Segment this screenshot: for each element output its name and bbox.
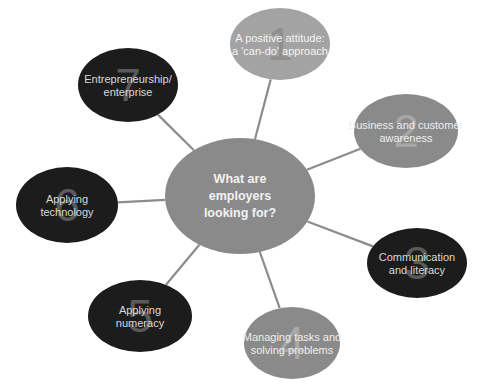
- node-3: 3Communicationand literacy: [367, 228, 467, 298]
- node-label-4-line-1: Managing tasks and: [243, 331, 341, 343]
- node-5: 5Applyingnumeracy: [88, 280, 192, 352]
- node-label-2-line-1: Business and customer: [349, 119, 464, 131]
- node-label-5-line-1: Applying: [119, 304, 161, 316]
- connector-line-5: [166, 245, 199, 285]
- node-label-3-line-2: and literacy: [389, 264, 446, 276]
- node-label-1-line-1: A positive attitude:: [235, 32, 324, 44]
- node-label-5-line-2: numeracy: [116, 317, 165, 329]
- node-1: 1A positive attitude:a 'can-do' approach: [230, 8, 330, 80]
- node-label-7-line-2: enterprise: [104, 86, 153, 98]
- node-7: 7Entrepreneurship/enterprise: [78, 48, 178, 122]
- center-label-line-3: looking for?: [204, 206, 276, 220]
- connector-line-4: [260, 252, 280, 308]
- node-label-6-line-2: technology: [40, 206, 94, 218]
- connector-line-1: [255, 79, 271, 139]
- node-label-1-line-2: a 'can-do' approach: [232, 45, 328, 57]
- connector-line-6: [118, 200, 165, 202]
- node-label-2-line-2: awareness: [379, 132, 433, 144]
- node-label-7-line-1: Entrepreneurship/: [84, 73, 172, 85]
- node-label-3-line-1: Communication: [379, 251, 455, 263]
- node-4: 4Managing tasks andsolving problems: [243, 307, 341, 379]
- mind-map-diagram: What are employers looking for? 1A posit…: [0, 0, 477, 388]
- center-node: What are employers looking for?: [165, 138, 315, 254]
- center-label-line-2: employers: [209, 189, 272, 203]
- connector-line-3: [307, 221, 373, 246]
- node-label-6-line-1: Applying: [46, 193, 88, 205]
- connector-line-2: [307, 149, 361, 170]
- node-6: 6Applyingtechnology: [16, 167, 118, 243]
- node-2: 2Business and customerawareness: [349, 94, 464, 168]
- node-label-4-line-2: solving problems: [251, 344, 334, 356]
- center-label-line-1: What are: [214, 172, 267, 186]
- connector-line-7: [158, 115, 194, 151]
